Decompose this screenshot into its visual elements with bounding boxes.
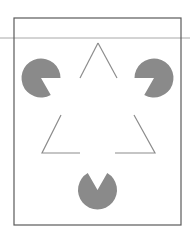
kanizsa-figure bbox=[0, 0, 190, 240]
figure-canvas bbox=[0, 0, 190, 240]
pacman-inducer-top-left bbox=[21, 59, 60, 98]
pacman-inducers bbox=[21, 59, 173, 210]
outline-segment-bottom-left-corner bbox=[42, 115, 80, 153]
outline-segment-apex-left-leg bbox=[80, 43, 98, 78]
outline-triangle-segments bbox=[42, 43, 155, 153]
outline-segment-bottom-right-corner bbox=[115, 115, 155, 153]
pacman-inducer-top-right bbox=[135, 59, 174, 98]
pacman-inducer-bottom bbox=[78, 173, 117, 209]
outline-segment-apex-right-leg bbox=[98, 43, 117, 78]
